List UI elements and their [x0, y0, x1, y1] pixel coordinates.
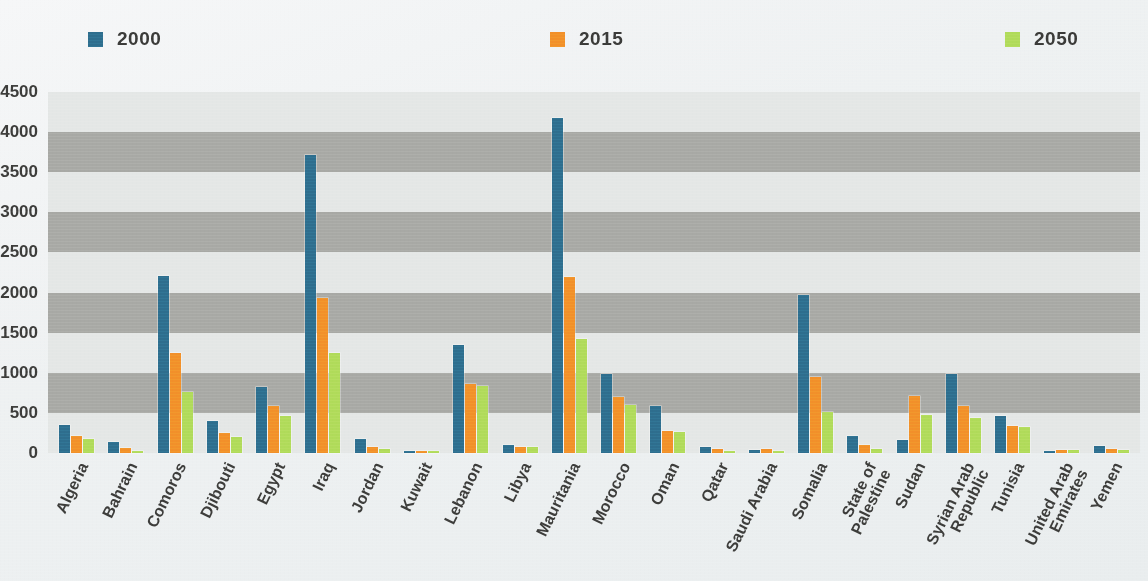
y-tick-label: 0 — [29, 443, 38, 463]
bar[interactable] — [970, 418, 981, 453]
bar[interactable] — [995, 416, 1006, 453]
bar[interactable] — [120, 448, 131, 453]
bar-chart: 200020152050 050010001500200025003000350… — [0, 0, 1148, 581]
bar[interactable] — [798, 295, 809, 453]
bar[interactable] — [674, 432, 685, 453]
bar-group — [397, 92, 446, 453]
bar[interactable] — [379, 449, 390, 453]
bar[interactable] — [1094, 446, 1105, 453]
bar[interactable] — [700, 447, 711, 453]
bar[interactable] — [773, 451, 784, 453]
bar[interactable] — [650, 406, 661, 453]
bar[interactable] — [182, 392, 193, 453]
legend-item-2050[interactable]: 2050 — [1005, 28, 1078, 50]
x-axis: AlgeriaBahrainComorosDjiboutiEgyptIraqJo… — [48, 456, 1140, 578]
bar[interactable] — [158, 276, 169, 453]
bar[interactable] — [59, 425, 70, 453]
bar[interactable] — [367, 447, 378, 453]
bar-group — [495, 92, 544, 453]
bar[interactable] — [749, 450, 760, 453]
bar-groups — [48, 92, 1140, 453]
bar[interactable] — [416, 451, 427, 453]
y-tick-label: 2000 — [0, 283, 38, 303]
bar[interactable] — [465, 384, 476, 453]
bar[interactable] — [601, 374, 612, 453]
x-tick-label: Jordan — [349, 460, 387, 515]
bar[interactable] — [552, 118, 563, 453]
bar-group — [692, 92, 741, 453]
bar[interactable] — [503, 445, 514, 453]
y-tick-label: 1500 — [0, 323, 38, 343]
bar[interactable] — [1068, 450, 1079, 453]
bar[interactable] — [355, 439, 366, 453]
bar[interactable] — [1106, 449, 1117, 453]
bar[interactable] — [280, 416, 291, 453]
bar[interactable] — [231, 437, 242, 453]
bar[interactable] — [909, 396, 920, 453]
x-tick: Mauritania — [545, 456, 594, 578]
x-tick: Oman — [643, 456, 692, 578]
bar[interactable] — [527, 447, 538, 453]
x-tick: Morocco — [594, 456, 643, 578]
bar[interactable] — [256, 387, 267, 453]
x-tick: Sudan — [890, 456, 939, 578]
bar[interactable] — [946, 374, 957, 453]
x-tick-label: Comoros — [144, 460, 189, 530]
bar[interactable] — [576, 339, 587, 453]
bar[interactable] — [761, 449, 772, 453]
legend-item-2000[interactable]: 2000 — [88, 28, 161, 50]
bar[interactable] — [1056, 450, 1067, 453]
x-tick: Saudi Arabia — [742, 456, 791, 578]
bar[interactable] — [108, 442, 119, 453]
legend-swatch-icon — [550, 32, 565, 47]
x-tick-label: Kuwait — [398, 460, 435, 514]
x-tick-label: Morocco — [589, 460, 633, 527]
bar[interactable] — [219, 433, 230, 453]
bar[interactable] — [477, 386, 488, 453]
x-tick-label: Tunisia — [989, 460, 1027, 516]
bar[interactable] — [613, 397, 624, 453]
bar[interactable] — [625, 405, 636, 453]
bar[interactable] — [822, 412, 833, 453]
bar[interactable] — [170, 353, 181, 453]
bar[interactable] — [724, 451, 735, 453]
bar[interactable] — [921, 415, 932, 454]
bar[interactable] — [897, 440, 908, 453]
bar[interactable] — [1019, 427, 1030, 453]
bar[interactable] — [1118, 450, 1129, 453]
bar[interactable] — [1044, 451, 1055, 453]
bar[interactable] — [305, 155, 316, 453]
bar[interactable] — [810, 377, 821, 453]
x-tick: Comoros — [151, 456, 200, 578]
bar[interactable] — [712, 449, 723, 453]
bar[interactable] — [132, 451, 143, 453]
legend-label: 2000 — [117, 28, 161, 50]
bar[interactable] — [958, 406, 969, 453]
bar[interactable] — [83, 439, 94, 453]
bar[interactable] — [329, 353, 340, 453]
bar[interactable] — [871, 449, 882, 453]
bar[interactable] — [662, 431, 673, 453]
bar-group — [890, 92, 939, 453]
y-tick-label: 2500 — [0, 242, 38, 262]
x-tick: Yemen — [1087, 456, 1136, 578]
y-tick-label: 3500 — [0, 162, 38, 182]
legend-item-2015[interactable]: 2015 — [550, 28, 623, 50]
x-tick: Kuwait — [397, 456, 446, 578]
bar[interactable] — [71, 436, 82, 453]
bar-group — [249, 92, 298, 453]
bar[interactable] — [515, 447, 526, 453]
bar[interactable] — [207, 421, 218, 453]
bar[interactable] — [564, 277, 575, 453]
bar[interactable] — [428, 451, 439, 453]
bar[interactable] — [317, 298, 328, 453]
bar[interactable] — [268, 406, 279, 453]
x-tick: Jordan — [348, 456, 397, 578]
x-tick-label: Bahrain — [100, 460, 140, 521]
bar[interactable] — [847, 436, 858, 453]
bar[interactable] — [453, 345, 464, 453]
bar[interactable] — [859, 445, 870, 453]
x-tick: Qatar — [692, 456, 741, 578]
bar[interactable] — [1007, 426, 1018, 453]
bar[interactable] — [404, 451, 415, 453]
